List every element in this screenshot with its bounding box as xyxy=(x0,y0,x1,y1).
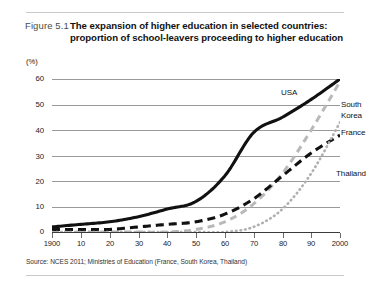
top-divider xyxy=(26,12,344,13)
series-label-south-korea-line2: Korea xyxy=(341,111,362,120)
y-tick-label-60: 60 xyxy=(28,74,44,83)
x-tick-1990 xyxy=(311,233,312,238)
figure-container: Figure 5.1The expansion of higher educat… xyxy=(0,0,373,289)
figure-title: The expansion of higher education in sel… xyxy=(70,20,348,45)
figure-title-line-1: The expansion of higher education in sel… xyxy=(70,20,327,31)
series-label-usa: USA xyxy=(281,88,297,97)
y-axis-unit-label: (%) xyxy=(26,57,38,66)
x-tick-2000 xyxy=(340,233,341,238)
x-tick-label-1980: 80 xyxy=(268,239,298,248)
series-line-france xyxy=(52,135,340,230)
x-tick-label-1970: 70 xyxy=(239,239,269,248)
x-tick-label-1930: 30 xyxy=(124,239,154,248)
x-tick-1930 xyxy=(139,233,140,238)
x-tick-1980 xyxy=(283,233,284,238)
x-tick-label-1960: 60 xyxy=(210,239,240,248)
series-line-south-korea xyxy=(52,82,340,232)
x-tick-1950 xyxy=(196,233,197,238)
series-label-france: France xyxy=(341,128,365,137)
figure-title-line-2: proportion of school-leavers proceeding … xyxy=(70,32,348,44)
x-tick-1970 xyxy=(254,233,255,238)
x-tick-label-1950: 50 xyxy=(181,239,211,248)
x-tick-label-1940: 40 xyxy=(152,239,182,248)
x-tick-1960 xyxy=(225,233,226,238)
series-label-south-korea: South Korea xyxy=(341,99,362,121)
figure-number: Figure 5.1 xyxy=(25,20,70,31)
figure-source: Source: NCES 2011; Ministries of Educati… xyxy=(26,258,247,265)
x-tick-1940 xyxy=(167,233,168,238)
y-tick-label-40: 40 xyxy=(28,126,44,135)
y-tick-label-10: 10 xyxy=(28,202,44,211)
x-tick-1920 xyxy=(110,233,111,238)
series-line-thailand xyxy=(52,122,340,232)
bottom-divider xyxy=(26,275,344,276)
figure-title-block: Figure 5.1The expansion of higher educat… xyxy=(25,20,355,45)
x-tick-label-2000: 2000 xyxy=(325,239,355,248)
plot-area xyxy=(52,79,340,232)
y-tick-label-50: 50 xyxy=(28,100,44,109)
x-tick-label-1910: 10 xyxy=(66,239,96,248)
series-canvas xyxy=(52,79,340,232)
y-tick-label-20: 20 xyxy=(28,177,44,186)
x-tick-1900 xyxy=(52,233,53,238)
x-tick-label-1920: 20 xyxy=(95,239,125,248)
series-label-thailand: Thailand xyxy=(336,169,366,178)
x-tick-label-1990: 90 xyxy=(296,239,326,248)
series-line-usa xyxy=(52,79,340,227)
y-tick-label-0: 0 xyxy=(28,227,44,236)
y-tick-label-30: 30 xyxy=(28,152,44,161)
x-tick-label-1900: 1900 xyxy=(37,239,67,248)
x-tick-1910 xyxy=(81,233,82,238)
series-label-south-korea-line1: South xyxy=(341,100,361,109)
